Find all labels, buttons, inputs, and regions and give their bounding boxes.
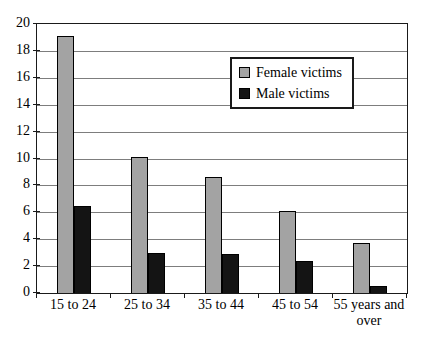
male-victims-bar	[222, 254, 239, 293]
male-victims-bar	[370, 286, 387, 293]
y-axis-tick	[33, 50, 40, 51]
y-axis-tick-label: 4	[0, 230, 30, 246]
y-axis-tick	[33, 238, 40, 239]
y-axis-tick	[33, 211, 40, 212]
y-axis-tick	[33, 158, 40, 159]
x-axis-category-label: 35 to 44	[179, 297, 263, 313]
y-axis-tick	[33, 23, 40, 24]
gridline	[37, 132, 407, 133]
x-axis-tick	[332, 293, 333, 298]
legend-item: Female victims	[239, 64, 342, 81]
female-victims-bar	[205, 177, 222, 293]
x-axis-tick	[406, 293, 407, 298]
female-victims-bar	[353, 243, 370, 293]
gridline	[37, 185, 407, 186]
x-axis-tick	[110, 293, 111, 298]
x-axis-tick	[36, 293, 37, 298]
y-axis-tick	[33, 131, 40, 132]
y-axis-tick-label: 18	[0, 42, 30, 58]
y-axis-tick-label: 12	[0, 123, 30, 139]
y-axis-tick-label: 20	[0, 15, 30, 31]
y-axis-tick	[33, 265, 40, 266]
y-axis-tick-label: 14	[0, 96, 30, 112]
y-axis-tick-label: 2	[0, 257, 30, 273]
y-axis-tick	[33, 104, 40, 105]
legend-label: Male victims	[256, 85, 330, 102]
x-axis-category-label: 55 years and over	[327, 297, 411, 329]
male-victims-bar	[296, 261, 313, 293]
y-axis-tick	[33, 184, 40, 185]
legend: Female victimsMale victims	[230, 57, 354, 109]
y-axis-tick-label: 8	[0, 176, 30, 192]
y-axis-tick-label: 10	[0, 150, 30, 166]
x-axis-category-label: 45 to 54	[253, 297, 337, 313]
gridline	[37, 212, 407, 213]
male-victims-bar	[148, 253, 165, 293]
female-victims-bar	[131, 157, 148, 293]
y-axis-tick-label: 6	[0, 203, 30, 219]
x-axis-tick	[184, 293, 185, 298]
x-axis-category-label: 15 to 24	[31, 297, 115, 313]
female-victims-bar	[279, 211, 296, 293]
x-axis-tick	[258, 293, 259, 298]
legend-label: Female victims	[256, 64, 342, 81]
male-victims-swatch-icon	[239, 88, 250, 99]
gridline	[37, 51, 407, 52]
legend-item: Male victims	[239, 85, 342, 102]
bar-chart-figure: 02468101214161820 15 to 2425 to 3435 to …	[0, 0, 427, 345]
y-axis-tick-label: 0	[0, 284, 30, 300]
y-axis-tick	[33, 77, 40, 78]
y-axis-tick-label: 16	[0, 69, 30, 85]
gridline	[37, 239, 407, 240]
male-victims-bar	[74, 206, 91, 293]
female-victims-swatch-icon	[239, 67, 250, 78]
gridline	[37, 159, 407, 160]
x-axis-category-label: 25 to 34	[105, 297, 189, 313]
female-victims-bar	[57, 36, 74, 293]
